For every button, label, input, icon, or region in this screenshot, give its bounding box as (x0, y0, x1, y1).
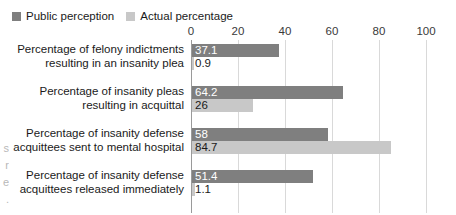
gridline (426, 40, 427, 213)
bar-group: 37.10.9 (191, 44, 426, 70)
bar-value-label: 0.9 (195, 57, 211, 70)
category-label: Percentage of insanity defenseacquittees… (13, 127, 184, 154)
category-label-line: resulting in an insanity plea (17, 57, 184, 71)
bar (192, 128, 328, 141)
bar-value-label: 37.1 (195, 44, 217, 57)
bar-chart: Public perception Actual percentage 0204… (0, 0, 456, 215)
legend-swatch-icon (126, 12, 135, 21)
category-label-line: Percentage of felony indictments (17, 43, 184, 57)
bar-group: 5884.7 (191, 128, 426, 154)
bar-group: 51.41.1 (191, 170, 426, 196)
category-label-line: acquittees sent to mental hospital (13, 141, 184, 155)
category-label-line: resulting in acquittal (40, 99, 184, 113)
category-label-line: acquittees released immediately (20, 183, 184, 197)
x-tick-label: 40 (279, 25, 292, 38)
category-label: Percentage of felony indictmentsresultin… (17, 43, 184, 70)
legend-label: Actual percentage (140, 10, 233, 22)
bar-value-label: 58 (195, 128, 208, 141)
x-tick-label: 0 (188, 25, 194, 38)
x-tick-label: 20 (232, 25, 245, 38)
clipped-margin-text: s r e . (0, 140, 9, 210)
category-label-line: Percentage of insanity defense (20, 169, 184, 183)
bar-value-label: 64.2 (195, 86, 217, 99)
legend-swatch-icon (12, 12, 21, 21)
bar-group: 64.226 (191, 86, 426, 112)
category-label: Percentage of insanity pleasresulting in… (40, 85, 184, 112)
chart-legend: Public perception Actual percentage (12, 9, 233, 23)
category-label-line: Percentage of insanity pleas (40, 85, 184, 99)
category-label: Percentage of insanity defenseacquittees… (20, 169, 184, 196)
x-tick-label: 100 (416, 25, 435, 38)
category-label-line: Percentage of insanity defense (13, 127, 184, 141)
legend-item-public-perception: Public perception (12, 10, 114, 22)
legend-label: Public perception (26, 10, 114, 22)
x-tick-label: 80 (373, 25, 386, 38)
bar-value-label: 26 (195, 99, 208, 112)
legend-item-actual-percentage: Actual percentage (126, 10, 233, 22)
bar-value-label: 51.4 (195, 170, 217, 183)
bar (192, 141, 391, 154)
bar-value-label: 84.7 (195, 141, 217, 154)
bar-value-label: 1.1 (195, 183, 211, 196)
x-tick-label: 60 (326, 25, 339, 38)
y-axis-category-labels: Percentage of felony indictmentsresultin… (0, 40, 189, 213)
plot-area: 37.10.964.2265884.751.41.1 (191, 40, 426, 213)
x-axis-tick-labels: 020406080100 (191, 25, 426, 39)
bar (192, 57, 194, 70)
